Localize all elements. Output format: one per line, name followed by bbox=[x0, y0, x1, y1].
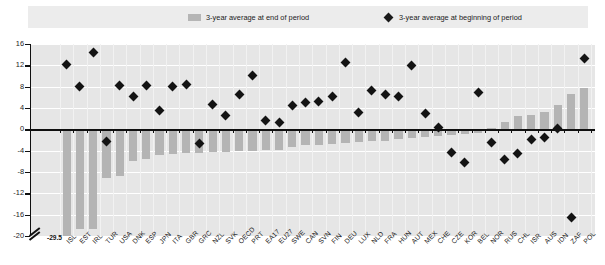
bar bbox=[63, 129, 71, 236]
bar bbox=[540, 112, 548, 130]
chart-root: 3-year average at end of period 3-year a… bbox=[0, 0, 605, 265]
data-point-diamond bbox=[380, 89, 390, 99]
y-axis-tick-label: -20 bbox=[0, 232, 24, 239]
y-axis-labels: -20-16-12-8-40481216 bbox=[0, 44, 24, 236]
bar bbox=[394, 129, 402, 139]
x-axis-tick bbox=[538, 129, 539, 133]
x-axis-tick bbox=[432, 129, 433, 133]
gridline-vertical bbox=[206, 44, 207, 236]
x-axis-tick bbox=[564, 129, 565, 133]
gridline-vertical bbox=[445, 44, 446, 236]
data-point-diamond bbox=[155, 105, 165, 115]
bar bbox=[142, 129, 150, 158]
x-axis-tick bbox=[259, 129, 260, 133]
x-axis-tick bbox=[511, 129, 512, 133]
data-point-diamond bbox=[540, 132, 550, 142]
gridline-vertical bbox=[379, 44, 380, 236]
bar bbox=[527, 115, 535, 129]
axis-break-label: -29.5 bbox=[47, 234, 62, 241]
x-axis-tick bbox=[365, 129, 366, 133]
bar bbox=[76, 129, 84, 228]
x-axis-tick bbox=[445, 129, 446, 133]
bar bbox=[580, 88, 588, 130]
x-axis-tick bbox=[286, 129, 287, 133]
y-axis-tick-label: -16 bbox=[0, 211, 24, 218]
x-axis-tick bbox=[100, 129, 101, 133]
data-point-diamond bbox=[261, 116, 271, 126]
gridline-vertical bbox=[233, 44, 234, 236]
bar bbox=[222, 129, 230, 151]
bar bbox=[381, 129, 389, 140]
bar bbox=[155, 129, 163, 155]
legend-diamond-swatch-icon bbox=[384, 12, 394, 22]
gridline-vertical bbox=[551, 44, 552, 236]
bar bbox=[301, 129, 309, 145]
gridline-vertical bbox=[272, 44, 273, 236]
x-axis-tick bbox=[73, 129, 74, 133]
legend-diamond-label: 3-year average at beginning of period bbox=[399, 13, 522, 22]
x-axis-tick bbox=[153, 129, 154, 133]
data-point-diamond bbox=[327, 92, 337, 102]
data-point-diamond bbox=[88, 47, 98, 57]
gridline-vertical bbox=[193, 44, 194, 236]
bar bbox=[235, 129, 243, 151]
x-axis-tick bbox=[166, 129, 167, 133]
x-axis-tick bbox=[113, 129, 114, 133]
bar bbox=[262, 129, 270, 150]
gridline-vertical bbox=[153, 44, 154, 236]
gridline-vertical bbox=[87, 44, 88, 236]
x-axis-labels: ISLESTIRLTURUSADNKESPJPNITAGBRGRCNZLSVKO… bbox=[30, 240, 595, 265]
plot-area-wrapper: -20-16-12-8-40481216 -29.5 ISLESTIRLTURU… bbox=[0, 40, 605, 240]
data-point-diamond bbox=[486, 138, 496, 148]
x-axis-tick bbox=[179, 129, 180, 133]
bar bbox=[341, 129, 349, 142]
y-axis-tick bbox=[25, 193, 30, 194]
y-axis-tick bbox=[25, 151, 30, 152]
x-axis-tick bbox=[485, 129, 486, 133]
y-axis-tick bbox=[25, 44, 30, 45]
y-axis-tick-label: -12 bbox=[0, 189, 24, 196]
bar bbox=[501, 122, 509, 129]
gridline-vertical bbox=[246, 44, 247, 236]
x-axis-tick bbox=[472, 129, 473, 133]
gridline-vertical bbox=[472, 44, 473, 236]
gridline-vertical bbox=[259, 44, 260, 236]
x-axis-tick bbox=[233, 129, 234, 133]
gridline-vertical bbox=[60, 44, 61, 236]
bar bbox=[288, 129, 296, 147]
bar bbox=[567, 94, 575, 130]
y-axis-tick bbox=[25, 172, 30, 173]
gridline-vertical bbox=[458, 44, 459, 236]
data-point-diamond bbox=[62, 59, 72, 69]
data-point-diamond bbox=[248, 71, 258, 81]
bar bbox=[248, 129, 256, 150]
x-axis-tick bbox=[418, 129, 419, 133]
gridline-vertical bbox=[166, 44, 167, 236]
data-point-diamond bbox=[500, 154, 510, 164]
bar bbox=[209, 129, 217, 152]
gridline-vertical bbox=[511, 44, 512, 236]
bar bbox=[355, 129, 363, 141]
x-axis-tick bbox=[60, 129, 61, 133]
y-axis-tick bbox=[25, 215, 30, 216]
data-point-diamond bbox=[221, 111, 231, 121]
x-axis-tick bbox=[299, 129, 300, 133]
x-axis-tick bbox=[498, 129, 499, 133]
bar bbox=[328, 129, 336, 144]
gridline-vertical bbox=[432, 44, 433, 236]
y-axis-tick-label: 16 bbox=[0, 40, 24, 47]
data-point-diamond bbox=[274, 118, 284, 128]
gridline-vertical bbox=[485, 44, 486, 236]
gridline-vertical bbox=[538, 44, 539, 236]
data-point-diamond bbox=[115, 81, 125, 91]
x-axis-tick bbox=[551, 129, 552, 133]
x-axis-tick bbox=[525, 129, 526, 133]
x-axis-tick bbox=[87, 129, 88, 133]
y-axis-tick-label: -4 bbox=[0, 147, 24, 154]
data-point-diamond bbox=[447, 148, 457, 158]
gridline-vertical bbox=[113, 44, 114, 236]
gridline-vertical bbox=[299, 44, 300, 236]
x-axis-tick bbox=[405, 129, 406, 133]
data-point-diamond bbox=[579, 53, 589, 63]
data-point-diamond bbox=[234, 90, 244, 100]
